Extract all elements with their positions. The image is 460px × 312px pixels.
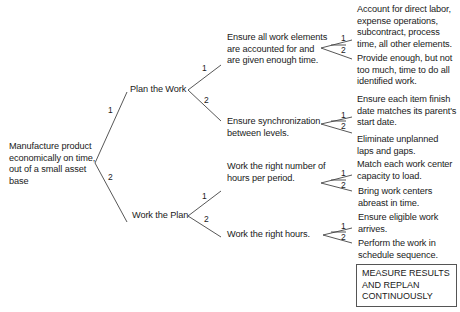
branch-number: 1 bbox=[202, 192, 207, 201]
measure-replan-note: MEASURE RESULTS AND REPLAN CONTINUOUSLY bbox=[356, 264, 457, 307]
sub-goal-right-hours: Work the right hours. bbox=[227, 229, 310, 241]
node-line: Ensure synchronization bbox=[227, 116, 320, 128]
node-line: hours per period. bbox=[227, 173, 326, 185]
node-line: subcontract, process bbox=[357, 27, 452, 39]
node-line: Ensure each item finish bbox=[357, 94, 456, 106]
node-line: laps and gaps. bbox=[357, 146, 438, 158]
node-line: date matches its parent's bbox=[357, 106, 456, 118]
node-line: abreast in time. bbox=[358, 198, 432, 210]
branch-number: 1 bbox=[341, 222, 346, 231]
branch-number: 1 bbox=[108, 106, 113, 115]
action-eligible-work: Ensure eligible work arrives. bbox=[358, 212, 438, 235]
branch-number: 2 bbox=[341, 46, 346, 55]
node-line: expense operations, bbox=[357, 16, 452, 28]
sub-goal-right-number-hours: Work the right number of hours per perio… bbox=[227, 161, 326, 184]
note-line: CONTINUOUSLY bbox=[362, 291, 450, 303]
node-line: too much, time to do all bbox=[357, 65, 452, 77]
node-line: arrives. bbox=[358, 224, 438, 236]
branch-number: 1 bbox=[341, 169, 346, 178]
node-line: Ensure all work elements bbox=[227, 32, 327, 44]
branch-number: 2 bbox=[341, 122, 346, 131]
sub-goal-all-elements: Ensure all work elements are accounted f… bbox=[227, 32, 327, 67]
note-line: MEASURE RESULTS bbox=[362, 268, 450, 280]
note-line: AND REPLAN bbox=[362, 280, 450, 292]
node-line: capacity to load. bbox=[357, 171, 452, 183]
node-line: Account for direct labor, bbox=[357, 4, 452, 16]
node-line: Provide enough, but not bbox=[357, 53, 452, 65]
action-schedule-sequence: Perform the work in schedule sequence. bbox=[358, 238, 438, 261]
node-line: time, all other elements. bbox=[357, 39, 452, 51]
node-line: start date. bbox=[357, 117, 456, 129]
action-bring-work-centers: Bring work centers abreast in time. bbox=[358, 186, 432, 209]
branch-number: 1 bbox=[341, 34, 346, 43]
node-line: between levels. bbox=[227, 128, 320, 140]
plan-the-work-node: Plan the Work bbox=[130, 84, 186, 96]
action-account-labor: Account for direct labor, expense operat… bbox=[357, 4, 452, 50]
node-line: Ensure eligible work bbox=[358, 212, 438, 224]
node-line: are accounted for and bbox=[227, 44, 327, 56]
root-line: economically on time, bbox=[9, 153, 95, 165]
node-line: are given enough time. bbox=[227, 55, 327, 67]
action-provide-enough-time: Provide enough, but not too much, time t… bbox=[357, 53, 452, 88]
node-line: identified work. bbox=[357, 76, 452, 88]
node-line: Bring work centers bbox=[358, 186, 432, 198]
branch-number: 2 bbox=[341, 181, 346, 190]
branch-number: 2 bbox=[204, 215, 209, 224]
root-line: Manufacture product bbox=[9, 141, 95, 153]
action-eliminate-gaps: Eliminate unplanned laps and gaps. bbox=[357, 134, 438, 157]
branch-number: 1 bbox=[202, 64, 207, 73]
root-line: out of a small asset bbox=[9, 164, 95, 176]
root-goal: Manufacture product economically on time… bbox=[9, 141, 95, 187]
node-line: schedule sequence. bbox=[358, 250, 438, 262]
node-line: Eliminate unplanned bbox=[357, 134, 438, 146]
branch-number: 1 bbox=[341, 111, 346, 120]
action-match-capacity: Match each work center capacity to load. bbox=[357, 159, 452, 182]
branch-number: 2 bbox=[204, 96, 209, 105]
node-line: Perform the work in bbox=[358, 238, 438, 250]
node-line: Work the right hours. bbox=[227, 229, 310, 241]
sub-goal-synchronization: Ensure synchronization between levels. bbox=[227, 116, 320, 139]
action-finish-date-match: Ensure each item finish date matches its… bbox=[357, 94, 456, 129]
node-line: Match each work center bbox=[357, 159, 452, 171]
objective-tree-diagram: Manufacture product economically on time… bbox=[0, 0, 460, 312]
node-line: Work the right number of bbox=[227, 161, 326, 173]
branch-number: 2 bbox=[341, 233, 346, 242]
root-line: base bbox=[9, 176, 95, 188]
branch-number: 2 bbox=[108, 173, 113, 182]
work-the-plan-node: Work the Plan bbox=[132, 210, 188, 222]
